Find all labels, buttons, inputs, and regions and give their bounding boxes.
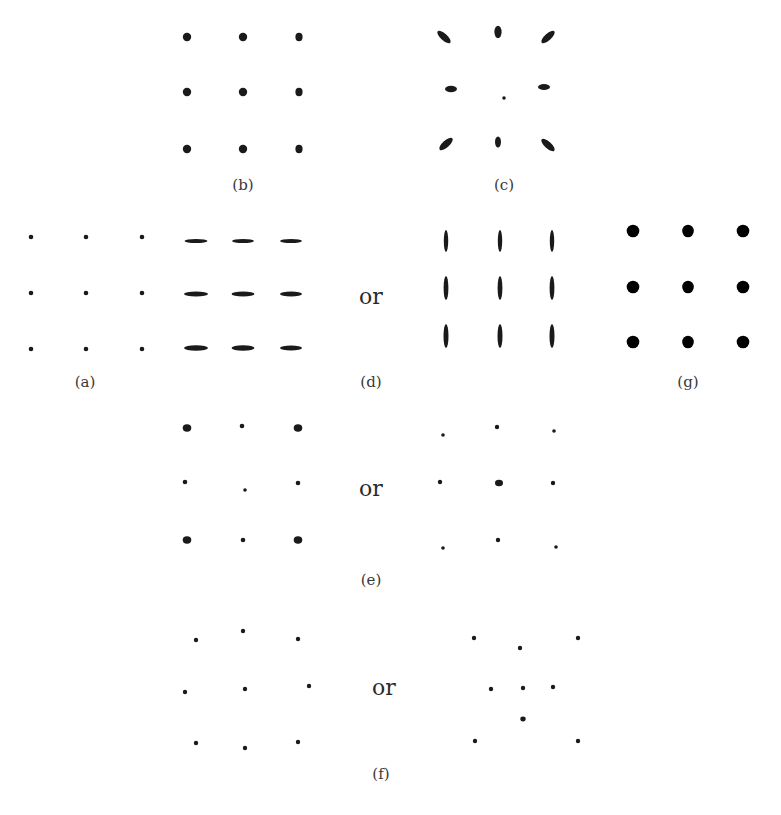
diffraction-spot <box>473 739 477 743</box>
diffraction-spot <box>294 424 303 431</box>
diffraction-spot <box>84 235 89 240</box>
diffraction-spot <box>307 684 311 688</box>
diffraction-spot <box>140 291 145 296</box>
diffraction-spot <box>554 545 558 549</box>
diffraction-spot <box>183 480 188 485</box>
diffraction-spot <box>437 136 454 153</box>
diffraction-spot <box>232 239 254 243</box>
diffraction-spot <box>243 488 247 492</box>
diffraction-spot <box>295 88 302 96</box>
diffraction-spot <box>444 230 448 252</box>
diffraction-spot <box>294 536 303 543</box>
diffraction-spot <box>538 84 550 90</box>
diffraction-spot <box>185 239 208 243</box>
or-separator-f: or <box>372 675 396 700</box>
diffraction-spot <box>239 145 247 153</box>
diffraction-spot <box>183 33 191 41</box>
diffraction-spot <box>184 345 208 351</box>
diffraction-spot <box>296 637 300 641</box>
diffraction-spot <box>239 88 247 96</box>
diffraction-spot <box>489 687 493 691</box>
diffraction-spot <box>184 291 208 296</box>
diffraction-spot <box>239 33 247 41</box>
diffraction-spot <box>438 480 442 484</box>
diffraction-spot <box>737 336 750 349</box>
panel-label-c: (c) <box>494 176 514 194</box>
panel-label-g: (g) <box>677 373 698 391</box>
diffraction-spot <box>295 33 302 41</box>
diffraction-spot <box>627 225 640 238</box>
diffraction-spot <box>240 424 245 429</box>
diffraction-spot <box>140 347 145 352</box>
diffraction-spot <box>472 636 476 640</box>
diffraction-spot <box>495 137 501 148</box>
diffraction-spot <box>445 86 457 93</box>
diffraction-spot <box>521 686 525 690</box>
diffraction-spot <box>518 646 522 650</box>
panel-label-b: (b) <box>232 176 253 194</box>
diffraction-spot <box>737 225 750 238</box>
diffraction-spot <box>496 538 500 542</box>
diffraction-spot <box>243 746 247 750</box>
diffraction-spot <box>441 433 445 437</box>
diffraction-spot <box>551 685 555 689</box>
diffraction-spot <box>29 235 34 240</box>
diffraction-spot <box>441 546 445 550</box>
diffraction-spot <box>682 281 694 294</box>
diffraction-spot <box>539 137 556 153</box>
diffraction-spot <box>444 324 449 348</box>
panel-a <box>29 235 145 352</box>
or-separator-d: or <box>359 284 383 309</box>
diffraction-spot <box>520 717 525 722</box>
panel-label-d: (d) <box>360 373 381 391</box>
diffraction-spot <box>243 687 247 691</box>
diffraction-spot <box>183 690 187 694</box>
diffraction-spot <box>84 291 89 296</box>
diffraction-spot <box>183 424 192 431</box>
diffraction-spot <box>550 230 554 252</box>
panel-label-e: (e) <box>361 571 382 589</box>
panel-b <box>183 33 303 153</box>
diffraction-spot <box>280 346 302 351</box>
panel-c <box>435 26 556 153</box>
diffraction-spot <box>280 239 302 243</box>
diffraction-spot <box>232 345 255 351</box>
diffraction-spot <box>498 276 503 300</box>
diffraction-spot <box>183 88 191 96</box>
diffraction-spot <box>495 480 503 487</box>
diffraction-spot <box>550 276 555 300</box>
diffraction-spot <box>241 629 245 633</box>
diffraction-spot <box>140 235 145 240</box>
diffraction-spot <box>29 291 34 296</box>
diffraction-spot <box>435 29 452 45</box>
diffraction-spot <box>296 740 300 744</box>
diffraction-spot <box>241 538 246 543</box>
panel-g <box>627 225 750 349</box>
diffraction-spot <box>576 636 580 640</box>
diffraction-spot <box>494 26 501 38</box>
diffraction-spot <box>444 276 449 300</box>
diffraction-spot <box>682 336 694 349</box>
or-separator-e: or <box>359 476 383 501</box>
diffraction-spot <box>498 324 503 348</box>
diffraction-spot <box>682 225 694 238</box>
diffraction-spot <box>551 481 555 485</box>
diffraction-spot <box>84 347 89 352</box>
diffraction-spot <box>296 481 301 486</box>
diffraction-spot <box>552 429 556 433</box>
panel-label-f: (f) <box>372 765 389 783</box>
diffraction-spot <box>194 741 198 745</box>
diffraction-spot <box>295 145 302 153</box>
diffraction-spot <box>498 230 502 252</box>
diffraction-spot <box>550 324 555 348</box>
diffraction-spot <box>539 29 556 45</box>
diffraction-spot <box>29 347 34 352</box>
diffraction-spot <box>502 96 506 100</box>
diffraction-spot <box>183 145 191 153</box>
clipped-caption-line <box>0 806 781 815</box>
diffraction-spot <box>183 536 192 543</box>
diffraction-spot <box>232 291 255 296</box>
diffraction-spot <box>194 638 198 642</box>
diffraction-spot <box>280 292 302 297</box>
diffraction-spot <box>627 281 640 294</box>
